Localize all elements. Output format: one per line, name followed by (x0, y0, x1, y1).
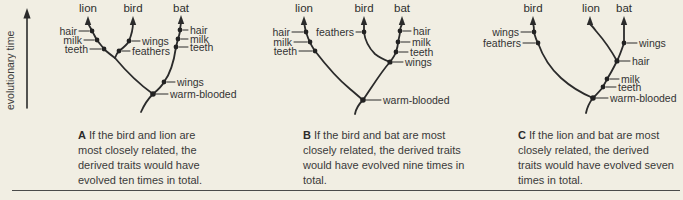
node-dot (360, 97, 366, 103)
tree-a-label-teeth-lion: teeth (65, 44, 88, 55)
tree-c-lion-branch (590, 24, 617, 61)
node-dot (532, 30, 537, 35)
tree-b-taxon-bird: bird (354, 3, 373, 15)
axis-arrowhead-icon (23, 8, 30, 19)
caption-b-text: If the bird and bat are most closely rel… (303, 129, 464, 186)
tree-a-taxon-bird: bird (123, 3, 142, 15)
tree-b-label-teeth-lion: teeth (274, 46, 297, 57)
caption-a: AIf the bird and lion are most closely r… (78, 128, 218, 188)
node-dot (90, 29, 95, 34)
tree-a-arrowheads (85, 15, 184, 25)
tree-c-taxon-bird: bird (523, 3, 542, 15)
tree-c-label-teeth-shared: teeth (618, 82, 641, 93)
tree-b-taxon-bat: bat (394, 3, 410, 15)
tree-c-label-wings-bat: wings (639, 38, 666, 49)
tree-c-label-warm-blooded: warm-blooded (610, 93, 677, 104)
up-arrow-icon (130, 16, 136, 25)
node-dot (127, 39, 132, 44)
bottom-rule (12, 190, 680, 191)
evolutionary-time-axis (23, 8, 30, 108)
tree-b-bird-branch (364, 23, 390, 62)
node-dot (178, 28, 183, 33)
node-dot (362, 30, 367, 35)
node-dot (308, 40, 313, 45)
caption-c-text: If the lion and bat are most closely rel… (518, 129, 674, 186)
up-arrow-icon (399, 16, 405, 25)
tree-c-bird-branch (533, 23, 593, 98)
tree-b-label-hair-bat: hair (413, 26, 431, 37)
phylogeny-figure: evolutionary time lion bird bat hair mil… (0, 0, 683, 200)
tree-c-label-feathers: feathers (483, 38, 521, 49)
tree-a-label-teeth-bat: teeth (190, 42, 213, 53)
node-dot (304, 30, 309, 35)
node-dot (313, 49, 318, 54)
node-dot (396, 40, 401, 45)
node-dot (614, 58, 619, 63)
tree-a-root (141, 94, 153, 112)
up-arrow-icon (361, 16, 367, 25)
tree-c-label-wings-bird: wings (492, 27, 519, 38)
tree-a-taxon-bat: bat (173, 3, 189, 15)
up-arrow-icon (530, 16, 536, 25)
tree-b-arrowheads (301, 16, 405, 25)
node-dot (176, 37, 181, 42)
up-arrow-icon (301, 16, 307, 25)
node-dot (605, 77, 610, 82)
tree-c-taxon-bat: bat (616, 3, 632, 15)
tree-c-taxon-lion: lion (582, 3, 600, 15)
up-arrow-icon (178, 15, 184, 24)
tree-c-label-hair-shared: hair (632, 56, 650, 67)
tree-b-label-feathers: feathers (316, 27, 354, 38)
node-dot (601, 85, 606, 90)
caption-b-letter: B (303, 129, 311, 141)
caption-b: BIf the bird and bat are most closely re… (303, 128, 465, 188)
tree-a-label-wings-bat: wings (177, 77, 204, 88)
tree-b-label-wings-shared: wings (405, 57, 432, 68)
caption-a-text: If the bird and lion are most closely re… (78, 129, 202, 186)
evolutionary-time-axis-label: evolutionary time (4, 20, 16, 110)
tree-a-taxon-lion: lion (79, 3, 97, 15)
up-arrow-icon (587, 16, 593, 25)
node-dot (102, 47, 107, 52)
caption-c-letter: C (518, 129, 526, 141)
up-arrow-icon (85, 16, 91, 25)
tree-b-taxon-lion: lion (295, 3, 313, 15)
node-dot (162, 80, 167, 85)
node-dot (394, 50, 399, 55)
up-arrow-icon (621, 16, 627, 25)
node-dot (117, 49, 122, 54)
tree-a-clade-stem (115, 58, 153, 94)
node-dot (150, 91, 156, 97)
node-dot (398, 29, 403, 34)
tree-a-label-warm-blooded: warm-blooded (170, 89, 237, 100)
tree-b-label-warm-blooded: warm-blooded (383, 95, 450, 106)
node-dot (95, 38, 100, 43)
node-dot (590, 95, 596, 101)
tree-a-label-feathers: feathers (132, 46, 170, 57)
caption-a-letter: A (78, 129, 86, 141)
tree-c-arrowheads (530, 16, 627, 25)
node-dot (387, 59, 392, 64)
node-dot (622, 41, 627, 46)
node-dot (536, 41, 541, 46)
caption-c: CIf the lion and bat are most closely re… (518, 128, 674, 188)
node-dot (174, 45, 179, 50)
